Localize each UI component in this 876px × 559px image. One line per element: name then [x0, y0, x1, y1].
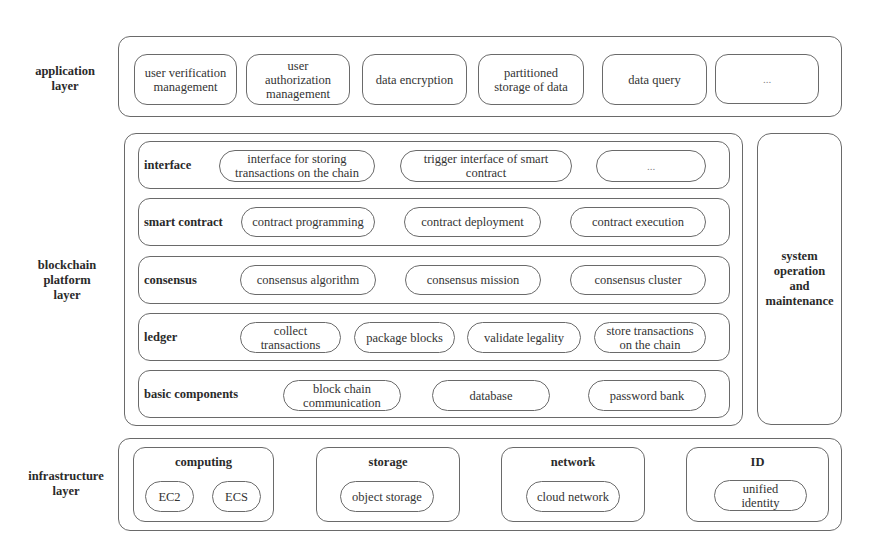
- ledger-item-store-transactions: store transactions on the chain: [594, 322, 706, 353]
- infra-group-computing-title: computing: [133, 455, 274, 470]
- ledger-item-validate-legality: validate legality: [467, 322, 581, 353]
- basic-item-database: database: [432, 380, 550, 411]
- infra-item-unified-identity: unified identity: [714, 480, 807, 511]
- infrastructure-layer-label: infrastructure layer: [18, 469, 114, 499]
- infra-item-ecs: ECS: [212, 481, 261, 512]
- system-operation-label: system operation and maintenance: [765, 249, 833, 309]
- ledger-item-collect-transactions: collect transactions: [240, 322, 341, 353]
- row-consensus-label: consensus: [144, 256, 197, 304]
- consensus-item-algorithm: consensus algorithm: [240, 265, 376, 295]
- row-ledger-label: ledger: [144, 313, 177, 361]
- interface-item-ellipsis: ...: [596, 150, 706, 182]
- smart-contract-item-deployment: contract deployment: [404, 207, 541, 237]
- app-item-user-authorization: user authorization management: [246, 54, 350, 105]
- app-item-ellipsis: ...: [715, 54, 819, 104]
- blockchain-platform-layer-label: blockchain platform layer: [22, 258, 112, 303]
- infra-group-network-title: network: [501, 455, 645, 470]
- consensus-item-mission: consensus mission: [405, 265, 541, 295]
- application-layer-label: application layer: [20, 64, 110, 94]
- app-item-partitioned-storage: partitioned storage of data: [478, 54, 584, 105]
- basic-item-password-bank: password bank: [588, 380, 706, 411]
- infra-item-object-storage: object storage: [340, 481, 434, 512]
- app-item-data-encryption: data encryption: [362, 54, 467, 105]
- row-interface-label: interface: [144, 141, 191, 189]
- interface-item-trigger-smart-contract: trigger interface of smart contract: [400, 150, 572, 182]
- consensus-item-cluster: consensus cluster: [570, 265, 706, 295]
- smart-contract-item-programming: contract programming: [241, 207, 375, 237]
- app-item-data-query: data query: [602, 54, 707, 105]
- system-operation-container: system operation and maintenance: [757, 133, 842, 425]
- ledger-item-package-blocks: package blocks: [354, 322, 455, 353]
- infra-group-storage-title: storage: [316, 455, 460, 470]
- basic-item-block-chain-communication: block chain communication: [283, 380, 401, 411]
- row-smart-contract-label: smart contract: [144, 198, 223, 246]
- app-item-user-verification: user verification management: [134, 54, 237, 105]
- interface-item-storing-transactions: interface for storing transactions on th…: [219, 150, 375, 182]
- row-basic-components-label: basic components: [144, 370, 238, 418]
- infra-group-id-title: ID: [686, 455, 829, 470]
- infra-item-ec2: EC2: [145, 481, 194, 512]
- smart-contract-item-execution: contract execution: [570, 207, 706, 237]
- infra-item-cloud-network: cloud network: [526, 481, 620, 512]
